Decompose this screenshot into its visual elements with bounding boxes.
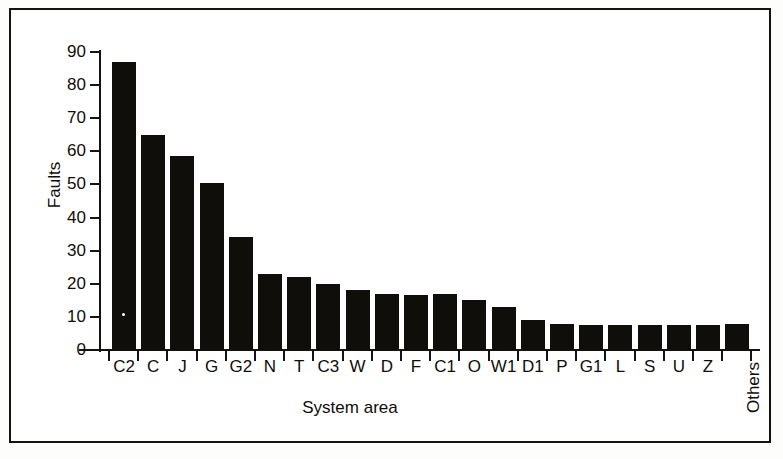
bar [521, 320, 545, 350]
scan-speckle [122, 313, 125, 316]
x-tick-label: T [283, 358, 315, 376]
bar [346, 290, 370, 350]
y-tick-mark [90, 349, 99, 351]
x-tick-label: G [196, 358, 228, 376]
x-tick-label: L [604, 358, 636, 376]
x-tick-label: C [137, 358, 169, 376]
x-tick-label: C2 [108, 358, 140, 376]
y-axis-title: Faults [45, 162, 65, 208]
y-tick-label-wrap: 40 [26, 209, 86, 226]
plot-area [100, 52, 762, 350]
x-tick-label: G2 [225, 358, 257, 376]
y-tick-label-wrap: 10 [26, 308, 86, 325]
y-tick-mark [90, 316, 99, 318]
y-tick-label: 60 [48, 142, 86, 159]
x-tick-label: P [546, 358, 578, 376]
y-tick-label: 10 [48, 308, 86, 325]
y-tick-label: 80 [48, 76, 86, 93]
y-tick-label: 20 [48, 275, 86, 292]
x-tick-label: W [342, 358, 374, 376]
x-tick-label: C3 [312, 358, 344, 376]
y-tick-label: 70 [48, 109, 86, 126]
x-tick-mark [750, 351, 752, 361]
y-tick-mark [90, 150, 99, 152]
y-tick-mark [90, 283, 99, 285]
y-tick-label-wrap: 80 [26, 76, 86, 93]
bar [404, 295, 428, 350]
y-tick-label-wrap: 20 [26, 275, 86, 292]
bar [170, 156, 194, 350]
x-tick-label: D1 [517, 358, 549, 376]
y-tick-mark [90, 250, 99, 252]
pareto-bar-chart: 0102030405060708090 C2CJGG2NTC3WDFC1OW1D… [0, 0, 783, 459]
x-tick-label: J [166, 358, 198, 376]
y-tick-label-wrap: 90 [26, 43, 86, 60]
bar [258, 274, 282, 350]
y-tick-mark [90, 84, 99, 86]
y-tick-label-wrap: 70 [26, 109, 86, 126]
x-tick-label: D [371, 358, 403, 376]
bar [667, 325, 691, 350]
y-tick-mark [90, 183, 99, 185]
y-tick-label-wrap: 60 [26, 142, 86, 159]
x-tick-label: N [254, 358, 286, 376]
bar [316, 284, 340, 350]
y-tick-label-wrap: 0 [26, 341, 86, 358]
bar [200, 183, 224, 350]
y-tick-label: 90 [48, 43, 86, 60]
bar [696, 325, 720, 350]
bar [608, 325, 632, 350]
bar [141, 135, 165, 350]
bar [433, 294, 457, 350]
bar [287, 277, 311, 350]
y-tick-mark [90, 117, 99, 119]
y-tick-label: 40 [48, 209, 86, 226]
x-tick-label: W1 [488, 358, 520, 376]
x-axis-title: System area [0, 398, 700, 418]
x-tick-label: Others [745, 362, 763, 432]
x-tick-label: C1 [429, 358, 461, 376]
x-tick-label: Z [692, 358, 724, 376]
y-tick-mark [90, 217, 99, 219]
y-tick-label: 30 [48, 242, 86, 259]
y-tick-mark [90, 51, 99, 53]
x-tick-label: S [634, 358, 666, 376]
x-tick-label: U [663, 358, 695, 376]
scanned-page: 0102030405060708090 C2CJGG2NTC3WDFC1OW1D… [0, 0, 783, 459]
x-tick-label: F [400, 358, 432, 376]
bar [550, 324, 574, 350]
bar [112, 62, 136, 350]
bar [579, 325, 603, 350]
bar [375, 294, 399, 350]
bar [725, 324, 749, 350]
x-tick-label: G1 [575, 358, 607, 376]
bar [492, 307, 516, 350]
y-tick-label-wrap: 30 [26, 242, 86, 259]
bar [229, 237, 253, 350]
x-tick-label: O [458, 358, 490, 376]
bar [638, 325, 662, 350]
y-tick-label: 0 [48, 341, 86, 358]
bar [462, 300, 486, 350]
